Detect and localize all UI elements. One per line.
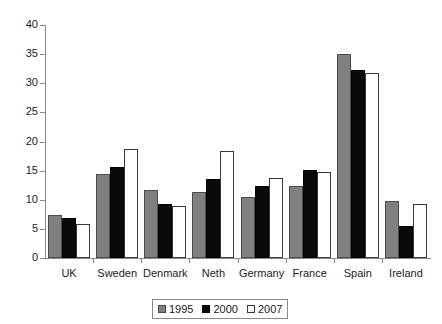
legend-swatch-icon <box>158 305 166 313</box>
x-axis-label-denmark: Denmark <box>141 267 189 280</box>
bar-1995-sweden <box>96 174 110 258</box>
legend-label: 2007 <box>258 304 282 315</box>
x-axis-tick <box>382 258 383 263</box>
y-axis-tick-label: 35 <box>8 48 38 59</box>
bar-2000-germany <box>255 186 269 258</box>
x-axis-label-france: France <box>286 267 334 280</box>
x-axis-label-ireland: Ireland <box>382 267 430 280</box>
bar-1995-neth <box>192 192 206 258</box>
bar-2000-spain <box>351 70 365 258</box>
bar-2000-ireland <box>399 226 413 258</box>
bar-2007-france <box>317 172 331 258</box>
x-axis-tick <box>334 258 335 263</box>
x-axis-label-spain: Spain <box>334 267 382 280</box>
y-axis-tick-label: 20 <box>8 136 38 147</box>
y-axis-tick-label: 30 <box>8 77 38 88</box>
bar-2007-denmark <box>172 206 186 258</box>
bar-2007-sweden <box>124 149 138 259</box>
y-axis-tick-label: 25 <box>8 106 38 117</box>
legend-entry-1995: 1995 <box>158 304 193 315</box>
x-axis-tick <box>189 258 190 263</box>
legend-entry-2007: 2007 <box>247 304 282 315</box>
bar-1995-uk <box>48 215 62 258</box>
chart-legend: 199520002007 <box>152 299 288 319</box>
legend-entry-2000: 2000 <box>202 304 237 315</box>
bar-2000-uk <box>62 218 76 258</box>
x-axis-label-germany: Germany <box>238 267 286 280</box>
x-axis-label-neth: Neth <box>189 267 237 280</box>
bar-2000-france <box>303 170 317 258</box>
x-axis-label-uk: UK <box>45 267 93 280</box>
y-axis-tick <box>40 258 45 259</box>
x-axis-tick <box>93 258 94 263</box>
bar-2007-germany <box>269 178 283 258</box>
bar-1995-france <box>289 186 303 258</box>
bar-2007-neth <box>220 151 234 258</box>
legend-label: 1995 <box>169 304 193 315</box>
x-axis-tick <box>141 258 142 263</box>
bar-chart: 0510152025303540 UKSwedenDenmarkNethGerm… <box>0 0 442 324</box>
y-axis-tick-label: 40 <box>8 19 38 30</box>
x-axis-tick <box>238 258 239 263</box>
bar-1995-ireland <box>385 201 399 258</box>
bar-2007-uk <box>76 224 90 258</box>
y-axis-tick-label: 15 <box>8 165 38 176</box>
legend-swatch-icon <box>247 305 255 313</box>
bar-2007-ireland <box>413 204 427 258</box>
bar-2000-denmark <box>158 204 172 258</box>
bar-2007-spain <box>365 73 379 258</box>
y-axis-tick-label: 0 <box>8 252 38 263</box>
y-axis-tick-label: 5 <box>8 223 38 234</box>
bar-2000-neth <box>206 179 220 258</box>
legend-swatch-icon <box>202 305 210 313</box>
x-axis-tick <box>286 258 287 263</box>
legend-label: 2000 <box>213 304 237 315</box>
bar-2000-sweden <box>110 167 124 258</box>
bar-1995-germany <box>241 197 255 258</box>
y-axis-tick-label: 10 <box>8 194 38 205</box>
bar-1995-spain <box>337 54 351 258</box>
bar-1995-denmark <box>144 190 158 258</box>
x-axis-label-sweden: Sweden <box>93 267 141 280</box>
plot-area <box>45 25 430 258</box>
